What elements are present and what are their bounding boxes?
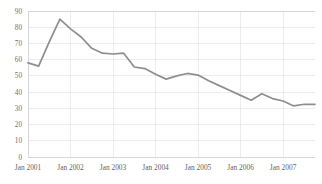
y-axis-tick-labels: 9080706050403020100 [15,8,23,162]
y-axis-tick-label: 20 [15,121,23,129]
series-line [28,19,315,106]
y-axis-tick-label: 90 [15,8,23,16]
y-axis-tick-label: 60 [15,56,23,64]
vertical-gridlines [28,11,283,157]
x-axis-tick-label: Jan 2007 [270,163,297,172]
axis-lines [28,11,315,157]
y-axis-tick-label: 0 [18,154,22,162]
line-chart: 9080706050403020100 Jan 2001Jan 2002Jan … [0,0,322,184]
y-axis-tick-label: 80 [15,24,23,32]
data-series-line [28,19,315,106]
y-axis-tick-label: 40 [15,89,23,97]
x-axis-tick-label: Jan 2003 [100,163,127,172]
y-axis-tick-label: 10 [15,137,23,145]
x-axis-tick-label: Jan 2006 [227,163,254,172]
x-axis-tick-label: Jan 2004 [142,163,169,172]
x-axis-tick-label: Jan 2001 [15,163,42,172]
y-axis-tick-label: 70 [15,40,23,48]
y-axis-tick-label: 30 [15,105,23,113]
y-axis-tick-label: 50 [15,72,23,80]
x-axis-tick-label: Jan 2005 [185,163,212,172]
chart-plot-area: 9080706050403020100 Jan 2001Jan 2002Jan … [0,0,322,184]
horizontal-gridlines [28,11,315,157]
x-axis-tick-labels: Jan 2001Jan 2002Jan 2003Jan 2004Jan 2005… [15,163,297,172]
x-axis-tick-label: Jan 2002 [57,163,84,172]
